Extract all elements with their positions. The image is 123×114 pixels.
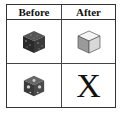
perforated-textured-cube-icon <box>22 74 46 98</box>
header-after: After <box>62 5 115 20</box>
row2-before-cell <box>7 64 62 107</box>
plain-gray-cube-icon <box>76 29 102 55</box>
row1-before-cell <box>7 20 62 64</box>
row1-after-cell <box>62 20 115 64</box>
header-before: Before <box>7 5 62 20</box>
not-applicable-mark: X <box>76 69 101 103</box>
before-after-table: Before After <box>6 4 116 108</box>
row2-after-cell: X <box>62 64 115 107</box>
dark-textured-cube-icon <box>21 29 47 55</box>
